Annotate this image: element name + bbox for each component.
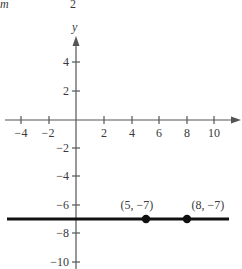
y-axis-label: y — [71, 20, 78, 34]
x-tick-label: 8 — [184, 126, 190, 140]
y-tick-label: 2 — [63, 84, 69, 98]
point-5-neg7 — [142, 215, 150, 223]
y-axis-arrow-icon — [73, 36, 80, 46]
x-tick-label: 2 — [101, 126, 107, 140]
y-tick-label: −2 — [56, 141, 69, 155]
header-fragment-2: 2 — [70, 0, 76, 11]
y-tick-label: −6 — [56, 198, 69, 212]
x-tick-label: 4 — [129, 126, 135, 140]
point-label: (5, −7) — [121, 198, 154, 212]
x-tick-label: −4 — [15, 126, 28, 140]
point-8-neg7 — [183, 215, 191, 223]
y-tick-label: −10 — [50, 255, 69, 269]
x-tick-label: 6 — [156, 126, 162, 140]
coordinate-plane: m 2 y −4 −2 2 4 6 8 10 4 2 −2 −4 −6 −8 −… — [0, 0, 242, 269]
y-tick-label: −4 — [56, 169, 69, 183]
y-tick-label: 4 — [63, 55, 69, 69]
y-tick-label: −8 — [56, 226, 69, 240]
header-fragment-m: m — [0, 0, 9, 11]
point-label: (8, −7) — [192, 198, 225, 212]
x-tick-label: −2 — [42, 126, 55, 140]
x-axis-arrow-icon — [231, 117, 241, 124]
x-tick-label: 10 — [208, 126, 220, 140]
